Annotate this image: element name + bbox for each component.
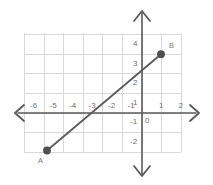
- point-a-label: A: [38, 157, 43, 165]
- y-tick-label--2: -2: [130, 137, 137, 146]
- x-tick-label-2: 2: [179, 101, 183, 110]
- x-tick-label--5: -5: [50, 101, 57, 110]
- point-b-marker: [157, 50, 165, 58]
- point-a-marker: [43, 147, 51, 155]
- segment-ab: [43, 50, 165, 154]
- graph-canvas: [0, 0, 213, 185]
- origin-label: 0: [145, 116, 149, 125]
- point-b-label: B: [169, 42, 174, 50]
- grid-lines: [24, 33, 181, 152]
- x-tick-label--3: -3: [89, 101, 96, 110]
- y-tick-label-2: 2: [133, 78, 137, 87]
- y-tick-label-4: 4: [133, 39, 137, 48]
- coordinate-plane-figure: -6 -5 -4 -3 -2 -1 1 2 4 3 2 1 -1 -2 0 A …: [0, 0, 213, 185]
- x-tick-label--2: -2: [108, 101, 115, 110]
- y-tick-label-1: 1: [133, 98, 137, 107]
- x-tick-label-1: 1: [159, 101, 163, 110]
- x-tick-label--4: -4: [69, 101, 76, 110]
- y-tick-label--1: -1: [130, 117, 137, 126]
- y-tick-label-3: 3: [133, 59, 137, 68]
- x-tick-label--6: -6: [30, 101, 37, 110]
